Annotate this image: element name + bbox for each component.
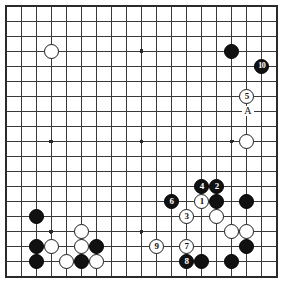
stone-black — [29, 239, 44, 254]
stone-black — [224, 44, 239, 59]
stone-white — [44, 239, 59, 254]
star-point — [230, 139, 234, 143]
goban-grid — [0, 0, 283, 297]
star-point — [139, 139, 143, 143]
star-point — [139, 49, 143, 53]
go-diagram: 10542613978 A — [0, 0, 283, 297]
stone-white — [44, 44, 59, 59]
stone-black — [29, 254, 44, 269]
point-marker-letter-A: A — [242, 106, 254, 116]
star-point — [49, 139, 53, 143]
stone-move-number: 8 — [185, 257, 189, 266]
stone-move-number: 2 — [215, 182, 219, 191]
stone-move-number: 7 — [185, 242, 189, 251]
stone-white — [74, 224, 89, 239]
stone-move-number: 6 — [170, 197, 174, 206]
stone-move-number: 1 — [200, 197, 204, 206]
stone-move-number: 9 — [154, 242, 158, 251]
stone-move-number: 10 — [258, 62, 265, 70]
stone-move-number: 4 — [200, 182, 204, 191]
stone-move-number: 5 — [245, 91, 249, 100]
star-point — [49, 230, 53, 234]
star-point — [139, 230, 143, 234]
stone-black — [29, 209, 44, 224]
stone-move-number: 3 — [185, 212, 189, 221]
